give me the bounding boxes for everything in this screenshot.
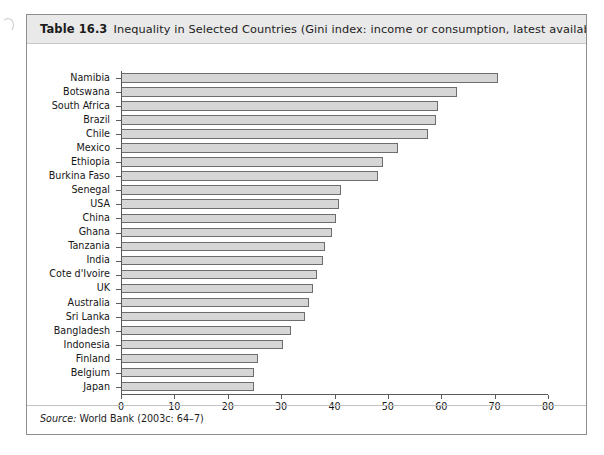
bar-row: [121, 366, 548, 380]
bar-row: [121, 183, 548, 197]
y-axis-tick-label: India: [27, 253, 115, 267]
y-axis-tick-mark: [116, 162, 121, 163]
x-axis-tick-label: 20: [222, 401, 234, 412]
y-axis-tick-mark: [116, 78, 121, 79]
table-number-label: Table 16.3: [40, 22, 107, 36]
y-axis-tick-label: Namibia: [27, 71, 115, 85]
y-axis-tick-mark: [116, 247, 121, 248]
y-axis-tick-label: Brazil: [27, 113, 115, 127]
x-axis-tick-mark: [548, 395, 549, 399]
bar-row: [121, 296, 548, 310]
y-axis-tick-label: Mexico: [27, 141, 115, 155]
y-axis-tick-mark: [116, 261, 121, 262]
bar: [121, 298, 309, 307]
x-axis-tick-mark: [281, 395, 282, 399]
bar-row: [121, 141, 548, 155]
bar-row: [121, 380, 548, 394]
bar: [121, 270, 317, 279]
y-axis-tick-mark: [116, 289, 121, 290]
bar-row: [121, 85, 548, 99]
bar-row: [121, 197, 548, 211]
y-axis-tick-label: Indonesia: [27, 338, 115, 352]
x-axis-tick-mark: [121, 395, 122, 399]
bar-row: [121, 253, 548, 267]
y-axis-tick-mark: [116, 345, 121, 346]
y-axis-tick-mark: [116, 303, 121, 304]
source-prefix: Source:: [40, 413, 76, 424]
y-axis-tick-mark: [116, 120, 121, 121]
bar: [121, 185, 341, 194]
table-caption-bar: Table 16.3 Inequality in Selected Countr…: [27, 15, 586, 44]
y-axis-category-labels: NamibiaBotswanaSouth AfricaBrazilChileMe…: [27, 71, 115, 394]
bar: [121, 340, 283, 349]
x-axis-tick-mark: [228, 395, 229, 399]
source-divider: [27, 405, 586, 406]
y-axis-tick-mark: [116, 92, 121, 93]
x-axis-tick-label: 40: [328, 401, 340, 412]
y-axis-tick-label: USA: [27, 197, 115, 211]
y-axis-tick-mark: [116, 190, 121, 191]
bar: [121, 368, 254, 377]
bar: [121, 171, 378, 180]
y-axis-tick-mark: [116, 387, 121, 388]
bars-container: [121, 71, 548, 394]
x-axis-tick-mark: [335, 395, 336, 399]
bar: [121, 157, 383, 166]
bar: [121, 143, 398, 152]
source-note: Source: World Bank (2003c: 64–7): [40, 413, 204, 424]
bar-row: [121, 267, 548, 281]
y-axis-tick-label: South Africa: [27, 99, 115, 113]
bar: [121, 242, 325, 251]
bar-chart: NamibiaBotswanaSouth AfricaBrazilChileMe…: [27, 44, 586, 405]
x-axis-tick-mark: [441, 395, 442, 399]
bar: [121, 129, 428, 138]
bar-row: [121, 324, 548, 338]
bar-row: [121, 155, 548, 169]
y-axis-tick-mark: [116, 359, 121, 360]
y-axis-tick-label: Australia: [27, 296, 115, 310]
bar-row: [121, 71, 548, 85]
y-axis-tick-label: Cote d'Ivoire: [27, 267, 115, 281]
bar: [121, 284, 313, 293]
y-axis-tick-label: UK: [27, 281, 115, 295]
y-axis-tick-label: Bangladesh: [27, 324, 115, 338]
y-axis-tick-label: Ethiopia: [27, 155, 115, 169]
y-axis-tick-mark: [116, 317, 121, 318]
x-axis-tick-label: 50: [382, 401, 394, 412]
bar: [121, 214, 336, 223]
x-axis-tick-mark: [388, 395, 389, 399]
bar: [121, 199, 339, 208]
x-axis-tick-label: 80: [542, 401, 554, 412]
table-caption-text: Inequality in Selected Countries (Gini i…: [113, 23, 586, 36]
y-axis-tick-mark: [116, 331, 121, 332]
bar: [121, 87, 457, 96]
bar: [121, 256, 323, 265]
bar-row: [121, 99, 548, 113]
y-axis-tick-label: Senegal: [27, 183, 115, 197]
bar: [121, 101, 438, 110]
table-figure-box: Table 16.3 Inequality in Selected Countr…: [26, 14, 587, 435]
y-axis-tick-label: Sri Lanka: [27, 310, 115, 324]
x-axis-tick-label: 70: [489, 401, 501, 412]
y-axis-tick-mark: [116, 233, 121, 234]
bar: [121, 228, 332, 237]
y-axis-tick-label: China: [27, 211, 115, 225]
source-text: World Bank (2003c: 64–7): [79, 413, 203, 424]
y-axis-tick-mark: [116, 148, 121, 149]
y-axis-tick-mark: [116, 275, 121, 276]
bar: [121, 312, 305, 321]
bar-row: [121, 127, 548, 141]
bar-row: [121, 113, 548, 127]
y-axis-tick-label: Botswana: [27, 85, 115, 99]
bar-row: [121, 211, 548, 225]
bar-row: [121, 169, 548, 183]
bar-row: [121, 338, 548, 352]
y-axis-tick-mark: [116, 373, 121, 374]
x-axis-tick-mark: [174, 395, 175, 399]
page-scan-artifact: [2, 18, 14, 32]
bar-row: [121, 225, 548, 239]
y-axis-line: [121, 71, 122, 394]
x-axis-tick-label: 0: [118, 401, 124, 412]
bar-row: [121, 352, 548, 366]
y-axis-tick-label: Ghana: [27, 225, 115, 239]
